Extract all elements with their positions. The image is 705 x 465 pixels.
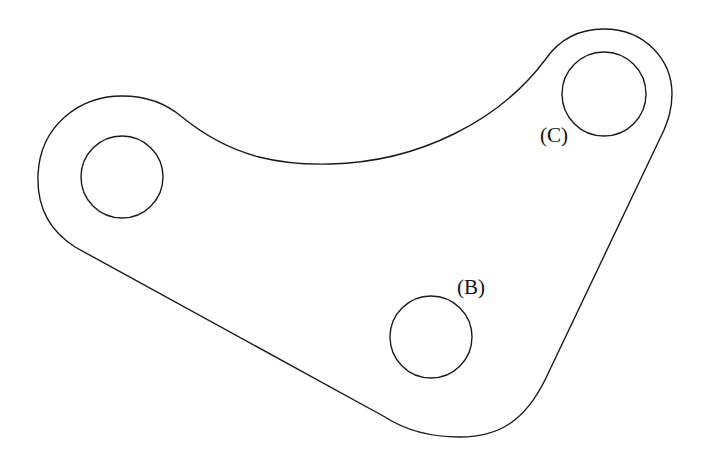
part-outline [38, 29, 672, 437]
hole-b [390, 296, 472, 378]
label-c: (C) [540, 123, 568, 147]
hole-a [81, 136, 163, 218]
part-diagram: (B) (C) [0, 0, 705, 465]
label-b: (B) [457, 275, 485, 299]
hole-c [562, 52, 646, 136]
